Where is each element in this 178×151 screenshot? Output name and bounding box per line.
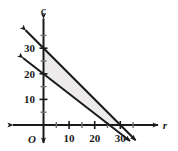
r-tick-label-20: 20	[89, 132, 101, 144]
c-tick-label-30: 30	[24, 42, 36, 54]
r-tick-label-10: 10	[64, 132, 76, 144]
r-tick-label-30: 30	[115, 132, 127, 144]
coordinate-plane-svg: 30 20 10 10 20 30 c r O	[0, 0, 178, 151]
lower-boundary-line	[23, 58, 130, 141]
upper-boundary-line	[26, 30, 136, 140]
c-axis-label: c	[41, 4, 46, 16]
c-tick-label-20: 20	[24, 68, 36, 80]
graph-figure: 30 20 10 10 20 30 c r O	[0, 0, 178, 151]
r-axis-label: r	[163, 119, 168, 131]
c-tick-label-10: 10	[24, 93, 36, 105]
origin-label: O	[28, 133, 36, 145]
